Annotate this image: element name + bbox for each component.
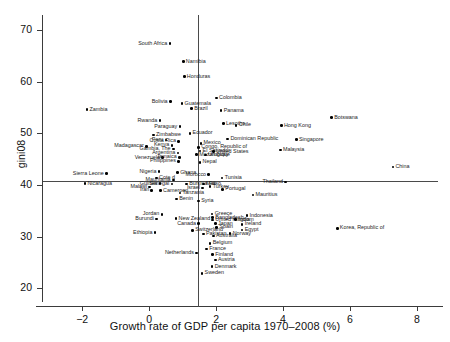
point-label: Panama xyxy=(224,108,244,113)
data-point xyxy=(197,146,200,149)
data-point xyxy=(201,272,204,275)
data-point xyxy=(178,156,181,159)
data-point xyxy=(241,223,244,226)
point-label: Morocco xyxy=(185,172,206,177)
data-point xyxy=(202,233,205,236)
point-label: Benin xyxy=(179,196,193,201)
point-label: Norway xyxy=(233,231,251,236)
data-point xyxy=(84,182,87,185)
y-tick-mark xyxy=(37,185,42,186)
data-point xyxy=(222,122,225,125)
point-label: South Africa xyxy=(138,41,167,46)
data-point xyxy=(161,213,164,216)
data-point xyxy=(171,183,174,186)
data-point xyxy=(209,185,212,188)
point-label: Thailand xyxy=(262,179,283,184)
data-point xyxy=(171,144,174,147)
data-point xyxy=(175,198,178,201)
data-point xyxy=(181,102,184,105)
scatter-plot-figure: −202468203040506070South AfricaNamibiaHo… xyxy=(0,0,450,342)
data-point xyxy=(195,153,198,156)
point-label: Portugal xyxy=(225,187,245,192)
point-label: Nepal xyxy=(203,160,217,165)
data-point xyxy=(220,109,223,112)
data-point xyxy=(211,265,214,268)
point-label: Uruguay xyxy=(208,152,228,157)
data-point xyxy=(158,170,161,173)
data-point xyxy=(207,173,210,176)
data-point xyxy=(209,242,212,245)
data-point xyxy=(212,235,215,238)
data-point xyxy=(189,132,192,135)
data-point xyxy=(336,227,339,230)
x-tick-mark xyxy=(350,306,351,311)
data-point xyxy=(234,218,237,221)
y-tick-mark xyxy=(37,237,42,238)
point-label: Austria xyxy=(218,257,235,262)
y-axis-line xyxy=(42,15,43,302)
data-point xyxy=(155,218,158,221)
point-label: Nigeria xyxy=(139,169,156,174)
point-label: China xyxy=(395,164,409,169)
x-axis-label: Growth rate of GDP per capita 1970–2008 … xyxy=(0,320,450,332)
x-axis-line xyxy=(36,306,443,307)
data-point xyxy=(284,181,287,184)
data-point xyxy=(221,177,224,180)
point-label: Malaysia xyxy=(283,147,304,152)
point-label: Tunisia xyxy=(225,175,242,180)
data-point xyxy=(105,172,108,175)
point-label: Mauritius xyxy=(255,192,277,197)
point-label: Korea, Republic of xyxy=(340,226,384,231)
y-tick-label-1: 30 xyxy=(6,230,32,242)
data-point xyxy=(150,189,153,192)
x-tick-mark xyxy=(216,306,217,311)
y-tick-mark xyxy=(37,30,42,31)
data-point xyxy=(252,194,255,197)
data-point xyxy=(177,152,180,155)
data-point xyxy=(279,149,282,152)
data-point xyxy=(159,182,162,185)
data-point xyxy=(214,222,217,225)
data-point xyxy=(392,166,395,169)
point-label: Syria xyxy=(201,198,213,203)
data-point xyxy=(169,42,172,45)
point-label: Brazil xyxy=(194,106,207,111)
data-point xyxy=(214,259,217,262)
point-label: Chile xyxy=(239,123,251,128)
point-label: Dominican Republic xyxy=(230,136,278,141)
plot-area: −202468203040506070South AfricaNamibiaHo… xyxy=(0,0,450,342)
x-tick-mark xyxy=(417,306,418,311)
point-label: Canada xyxy=(177,221,196,226)
point-label: Singapore xyxy=(299,137,324,142)
data-point xyxy=(86,108,89,111)
data-point xyxy=(295,138,298,141)
point-label: Bolivia xyxy=(152,99,168,104)
point-label: Honduras xyxy=(187,74,210,79)
data-point xyxy=(169,100,172,103)
point-label: Paraguay xyxy=(154,124,177,129)
data-point xyxy=(190,107,193,110)
point-label: Burundi xyxy=(135,216,154,221)
data-point xyxy=(202,183,205,186)
point-label: Sweden xyxy=(205,271,224,276)
data-point xyxy=(205,248,208,251)
point-label: Netherlands xyxy=(165,250,194,255)
data-point xyxy=(330,116,333,119)
data-point xyxy=(179,125,182,128)
data-point xyxy=(179,192,182,195)
data-point xyxy=(211,219,214,222)
data-point xyxy=(177,140,180,143)
x-tick-mark xyxy=(82,306,83,311)
data-point xyxy=(211,253,214,256)
point-label: Namibia xyxy=(186,59,206,64)
data-point xyxy=(199,161,202,164)
x-tick-mark xyxy=(283,306,284,311)
data-point xyxy=(215,97,218,100)
point-label: Sierra Leone xyxy=(73,171,104,176)
data-point xyxy=(172,179,175,182)
data-point xyxy=(183,75,186,78)
data-point xyxy=(154,231,157,234)
x-tick-mark xyxy=(149,306,150,311)
data-point xyxy=(191,229,194,232)
data-point xyxy=(159,189,162,192)
